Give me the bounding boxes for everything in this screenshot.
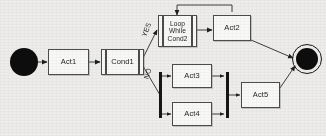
activity-act5-label: Act5 [253,91,268,99]
condition-cond1[interactable]: Cond1 [101,49,144,75]
condition-cond1-label: Cond1 [111,58,134,66]
fork-bar[interactable] [159,72,162,118]
activity-diagram-canvas: Act1 Cond1 YES NO Loop While Cond2 Act2 … [0,0,326,136]
activity-act1-label: Act1 [61,58,76,66]
edge-act2-loop-back [177,5,232,15]
loop-node-label-line1: Loop [168,20,188,27]
loop-node-cond2[interactable]: Loop While Cond2 [158,15,197,47]
activity-act1[interactable]: Act1 [48,49,89,75]
activity-act3[interactable]: Act3 [172,64,212,88]
activity-act3-label: Act3 [184,72,199,80]
activity-act4-label: Act4 [184,110,199,118]
loop-node-label-line2: While [168,27,188,34]
activity-act4[interactable]: Act4 [172,102,212,126]
loop-node-label-line3: Cond2 [168,35,188,42]
edge-act5-end [280,66,295,88]
activity-act2[interactable]: Act2 [213,15,251,41]
start-node[interactable] [10,48,38,76]
end-node[interactable] [296,48,318,70]
activity-act5[interactable]: Act5 [241,82,280,108]
activity-act2-label: Act2 [224,24,239,32]
edge-act2-end [251,40,293,58]
join-bar[interactable] [226,72,229,118]
